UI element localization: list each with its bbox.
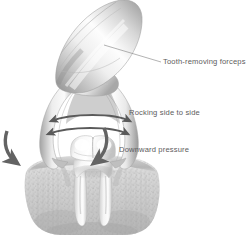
tooth-extraction-illustration — [0, 0, 247, 241]
pressure-arrow-left — [5, 131, 17, 163]
pulp-canal-mesial — [80, 176, 81, 214]
socket-shadow — [71, 165, 115, 179]
rocking-arrows-group — [48, 115, 130, 134]
label-rocking-side-to-side: Rocking side to side — [129, 109, 200, 117]
label-downward-pressure: Downward pressure — [119, 146, 189, 154]
cusp-highlight-mesial — [75, 139, 90, 151]
label-tooth-removing-forceps: Tooth-removing forceps — [163, 58, 246, 66]
rocking-arrow-lower — [48, 128, 128, 134]
forceps-handle-group — [48, 0, 142, 93]
dental-extraction-figure: Tooth-removing forceps Rocking side to s… — [0, 0, 247, 241]
pulp-canal-distal — [106, 176, 107, 214]
